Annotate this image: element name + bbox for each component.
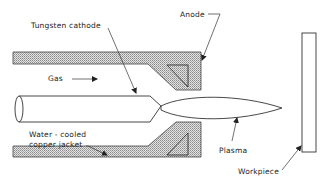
plasma-plume	[161, 97, 282, 119]
workpiece-leader	[282, 146, 301, 170]
tungsten-cathode-rod	[15, 96, 161, 122]
upper-jacket	[13, 52, 201, 90]
label-workpiece: Workpiece	[238, 167, 279, 176]
plasma-torch-diagram: Tungsten cathode Anode Gas Water - coole…	[0, 0, 327, 185]
plasma-leader	[232, 118, 237, 141]
label-plasma: Plasma	[219, 146, 247, 155]
label-gas: Gas	[48, 74, 63, 83]
label-anode: Anode	[180, 10, 205, 19]
label-tungsten-cathode: Tungsten cathode	[30, 21, 101, 30]
label-water-cooled: Water - cooled	[29, 130, 86, 139]
workpiece-plate	[302, 33, 316, 152]
anode-leader	[202, 14, 220, 60]
label-copper-jacket: copper jacket	[29, 140, 82, 149]
